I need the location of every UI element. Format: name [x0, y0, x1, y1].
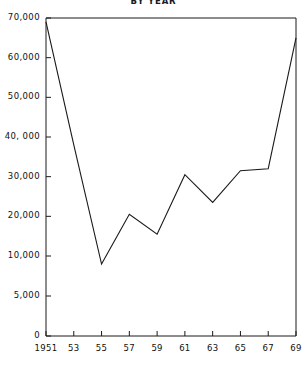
x-axis-tick-label: 69 [279, 344, 307, 353]
y-axis-tick-label: 60,000 [8, 53, 40, 62]
data-series-line [46, 22, 296, 264]
y-axis-tick-label: 20,000 [8, 211, 40, 220]
y-axis-tick-label: 70,000 [8, 13, 40, 22]
x-axis-ticks [46, 331, 296, 336]
y-axis-tick-label: 10,000 [8, 251, 40, 260]
chart-plot-area [0, 0, 307, 367]
y-axis-tick-label: 5,000 [14, 291, 40, 300]
y-axis-ticks [46, 18, 51, 336]
y-axis-tick-label: 0 [34, 331, 40, 340]
axis-frame [46, 18, 296, 336]
y-axis-tick-label: 50,000 [8, 92, 40, 101]
y-axis-tick-label: 30,000 [8, 172, 40, 181]
plot-frame [46, 18, 296, 336]
chart-container: BY YEAR 05,00010,00020,00030,00040, 0005… [0, 0, 307, 367]
y-axis-tick-label: 40, 000 [5, 132, 40, 141]
